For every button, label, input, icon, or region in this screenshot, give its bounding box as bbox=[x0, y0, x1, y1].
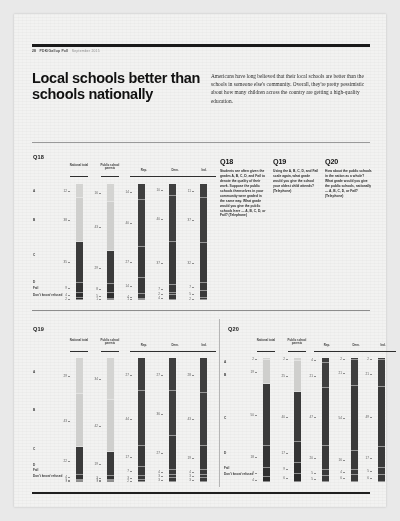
value-tick bbox=[130, 297, 132, 298]
bar-value-label: 27 bbox=[148, 451, 160, 455]
bar-segment bbox=[200, 358, 207, 393]
bar-segment bbox=[76, 358, 83, 394]
value-tick bbox=[192, 375, 194, 376]
bar-value-label: 36 bbox=[148, 412, 160, 416]
bar-value-label: 35 bbox=[55, 260, 67, 264]
bar-value-label: 44 bbox=[117, 417, 129, 421]
bar-segment bbox=[169, 391, 176, 436]
bar-segment bbox=[169, 436, 176, 469]
value-tick bbox=[161, 476, 163, 477]
colhead-dem: Dem. bbox=[163, 169, 187, 172]
headline-rule bbox=[32, 142, 370, 143]
value-tick bbox=[343, 460, 345, 461]
mid-rule bbox=[32, 310, 370, 311]
value-tick bbox=[286, 417, 288, 418]
bar-segment bbox=[169, 285, 176, 293]
value-tick bbox=[99, 296, 101, 297]
bar-value-label: 1 bbox=[117, 297, 129, 301]
rowlab-q19-b: B bbox=[33, 409, 63, 413]
bar-segment bbox=[378, 475, 385, 482]
value-tick bbox=[192, 299, 194, 300]
bar-value-label: 5 bbox=[357, 469, 369, 473]
bar-value-label: 17 bbox=[117, 455, 129, 459]
bar-segment bbox=[378, 387, 385, 448]
colrule-q20-partisan bbox=[314, 351, 396, 352]
value-tick bbox=[343, 418, 345, 419]
bar-value-label: 5 bbox=[301, 471, 313, 475]
value-tick bbox=[370, 471, 372, 472]
bar-segment bbox=[138, 184, 145, 200]
scanned-page: 28 PDK/Gallup Poll September 2015 Local … bbox=[14, 14, 386, 507]
bar-value-label: 4 bbox=[148, 296, 160, 300]
value-tick bbox=[255, 359, 257, 360]
value-tick bbox=[314, 417, 316, 418]
colhead-q20-dem: Dem. bbox=[344, 344, 368, 347]
value-tick bbox=[130, 375, 132, 376]
bar-segment bbox=[200, 393, 207, 446]
value-tick bbox=[192, 287, 194, 288]
bar-value-label: 14 bbox=[117, 190, 129, 194]
bar-value-label: 2 bbox=[330, 357, 342, 361]
value-tick bbox=[255, 415, 257, 416]
bar-segment bbox=[107, 202, 114, 251]
bar-segment bbox=[294, 361, 301, 392]
bar-value-label: 7 bbox=[179, 285, 191, 289]
rowlab-q19-d: D bbox=[33, 464, 63, 468]
bar-segment bbox=[138, 358, 145, 391]
bar-segment bbox=[200, 298, 207, 300]
bar-value-label: 17 bbox=[273, 451, 285, 455]
colhead-q19-parents: Public school parents bbox=[98, 339, 122, 346]
bar-value-label: 22 bbox=[55, 459, 67, 463]
bar-segment bbox=[107, 400, 114, 452]
bar-segment bbox=[378, 447, 385, 468]
bar-segment bbox=[76, 184, 83, 198]
value-tick bbox=[99, 478, 101, 479]
bar-value-label: 28 bbox=[179, 373, 191, 377]
bar-segment bbox=[138, 200, 145, 246]
bar-value-label: 16 bbox=[330, 458, 342, 462]
bar-value-label: 3 bbox=[148, 478, 160, 482]
question-block-q20: Q20 How about the public schools in the … bbox=[325, 157, 372, 199]
value-tick bbox=[99, 299, 101, 300]
value-tick bbox=[130, 262, 132, 263]
value-tick bbox=[130, 286, 132, 287]
bar-value-label: 14 bbox=[117, 284, 129, 288]
question-text-q18: Students are often given the grades A, B… bbox=[220, 169, 267, 218]
colhead-ind: Ind. bbox=[192, 169, 216, 172]
bar-segment bbox=[322, 446, 329, 470]
value-tick bbox=[286, 359, 288, 360]
bar-segment bbox=[169, 295, 176, 300]
value-tick bbox=[192, 294, 194, 295]
bar-value-label: 20 bbox=[301, 456, 313, 460]
value-tick bbox=[130, 192, 132, 193]
page-number: 28 bbox=[32, 49, 36, 53]
rowlab-q20-a: A bbox=[224, 361, 254, 365]
bar-value-label: 11 bbox=[179, 189, 191, 193]
colrule-q20-parents bbox=[288, 351, 306, 352]
bar-value-label: 21 bbox=[301, 374, 313, 378]
bar-value-label: 54 bbox=[330, 416, 342, 420]
bar-value-label: 25 bbox=[273, 374, 285, 378]
bar-segment bbox=[263, 384, 270, 446]
value-tick bbox=[343, 373, 345, 374]
bar-value-label: 6 bbox=[273, 476, 285, 480]
value-tick bbox=[161, 289, 163, 290]
colrule-partisan bbox=[130, 176, 216, 177]
value-tick bbox=[314, 376, 316, 377]
bar-value-label: 19 bbox=[86, 462, 98, 466]
bar-value-label: 2 bbox=[273, 357, 285, 361]
bar-segment bbox=[263, 446, 270, 468]
value-tick bbox=[99, 481, 101, 482]
value-tick bbox=[161, 414, 163, 415]
bar-value-label: 27 bbox=[117, 373, 129, 377]
colhead-q19-rep: Rep. bbox=[132, 344, 156, 347]
bar-value-label: 7 bbox=[242, 471, 254, 475]
value-tick bbox=[314, 473, 316, 474]
bar-segment bbox=[76, 481, 83, 482]
value-tick bbox=[343, 478, 345, 479]
colrule-q19-parents bbox=[101, 351, 119, 352]
bar-value-label: 49 bbox=[357, 415, 369, 419]
bar-value-label: 18 bbox=[242, 455, 254, 459]
value-tick bbox=[68, 191, 70, 192]
bar-value-label: 37 bbox=[148, 261, 160, 265]
